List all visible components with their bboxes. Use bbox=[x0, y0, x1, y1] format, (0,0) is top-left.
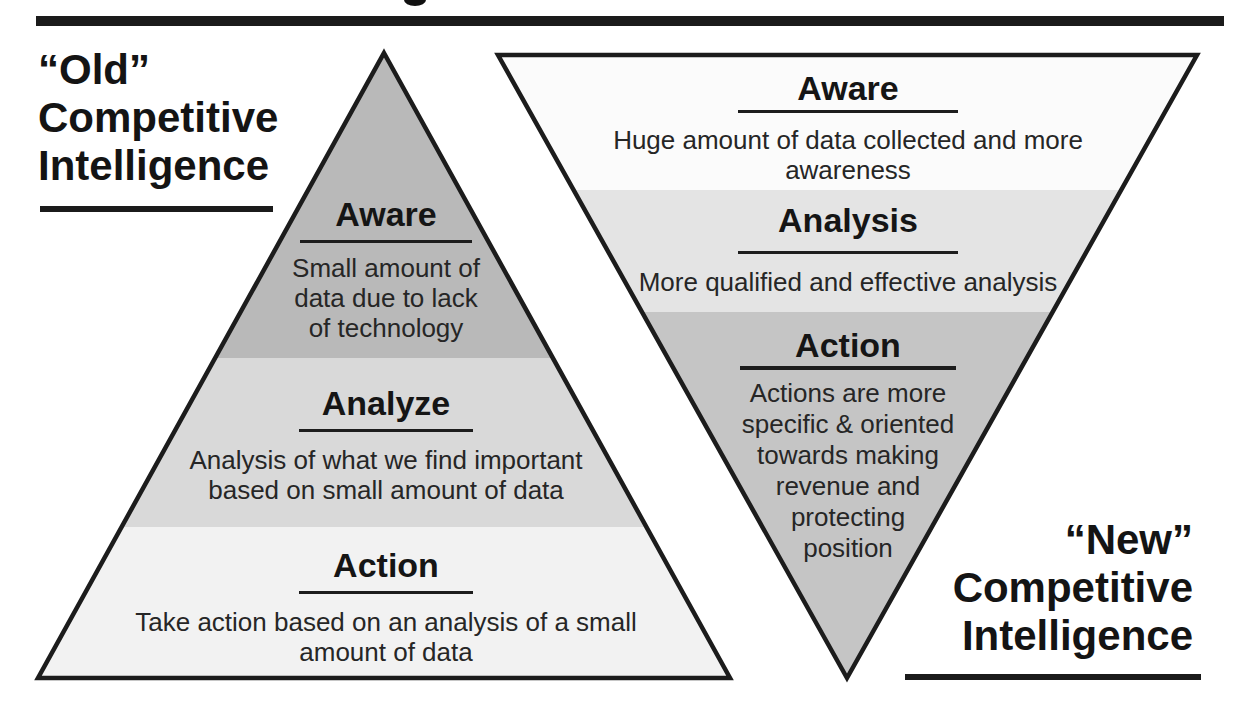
old-level-action-description: Take action based on an analysis of a sm… bbox=[86, 607, 686, 667]
old-level-action-title: Action bbox=[86, 548, 686, 582]
top-divider-bar bbox=[36, 16, 1224, 26]
new-label-underline bbox=[905, 674, 1201, 680]
new-ci-label-line2: Competitive bbox=[953, 564, 1193, 612]
old-level-analyze-description: Analysis of what we find important based… bbox=[106, 445, 666, 505]
old-level-aware-underline bbox=[300, 240, 472, 243]
old-ci-label: “Old” Competitive Intelligence bbox=[38, 46, 278, 190]
new-level-aware-underline bbox=[738, 110, 958, 113]
new-level-aware-description: Huge amount of data collected and more a… bbox=[548, 125, 1148, 185]
new-level-action: Action Actions are more specific & orien… bbox=[648, 328, 1048, 564]
old-level-action-underline bbox=[299, 591, 473, 594]
new-level-aware-title: Aware bbox=[548, 71, 1148, 105]
new-level-aware: Aware Huge amount of data collected and … bbox=[548, 71, 1148, 185]
old-ci-label-line3: Intelligence bbox=[38, 142, 278, 190]
new-level-action-underline bbox=[740, 366, 956, 370]
new-level-analysis-underline bbox=[738, 251, 958, 254]
new-ci-label-line3: Intelligence bbox=[953, 612, 1193, 660]
new-level-analysis-title: Analysis bbox=[548, 203, 1148, 237]
new-level-action-title: Action bbox=[648, 328, 1048, 362]
old-level-analyze-underline bbox=[299, 429, 473, 432]
old-ci-label-line2: Competitive bbox=[38, 94, 278, 142]
old-level-analyze: Analyze Analysis of what we find importa… bbox=[106, 386, 666, 505]
new-level-analysis: Analysis More qualified and effective an… bbox=[548, 203, 1148, 297]
new-level-analysis-description: More qualified and effective analysis bbox=[548, 267, 1148, 297]
diagram-canvas: “Old” Competitive Intelligence “New” Com… bbox=[0, 0, 1234, 717]
new-level-action-description: Actions are more specific & oriented tow… bbox=[648, 378, 1048, 564]
old-level-analyze-title: Analyze bbox=[106, 386, 666, 420]
old-ci-label-line1: “Old” bbox=[38, 46, 278, 94]
old-level-action: Action Take action based on an analysis … bbox=[86, 548, 686, 667]
